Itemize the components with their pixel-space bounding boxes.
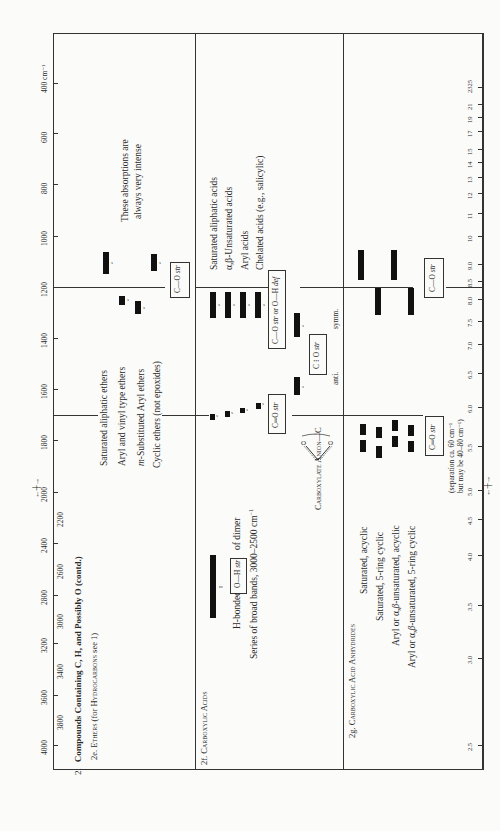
- wavenumber-tick: [53, 745, 58, 746]
- band-acid-chelated-c=o: [256, 403, 261, 409]
- wavelength-tick-label: 7.5: [466, 319, 473, 327]
- section-2f-title: 2f. Carboxylic Acids: [199, 692, 209, 765]
- band-acid-sat-c=o: [210, 414, 215, 420]
- carboxylate-c-o-label: C ⁝ O str: [312, 342, 321, 369]
- section-2g-number: 2g.: [347, 727, 357, 738]
- wavenumber-tick: [53, 133, 58, 134]
- section-2e-name: Ethers: [89, 724, 99, 748]
- wavenumber-tick-label: 1200: [40, 282, 49, 297]
- divider-2e-2f: [195, 33, 196, 770]
- ether-row-cyclic: Cyclic ethers (not epoxides): [152, 361, 162, 468]
- series-broad-bands: Series of broad bands, 3000–2500 cm−1: [248, 509, 259, 659]
- anh-row-sat-5ring: Saturated, 5-ring cyclic: [375, 532, 385, 621]
- ref-line-1200-acids-a: [195, 287, 268, 288]
- section-2e-sub-c: see 1): [89, 633, 99, 653]
- of-dimer-label: of dimer: [232, 518, 242, 550]
- wavenumber-tick: [53, 440, 58, 441]
- symm-label: symm.: [331, 309, 340, 329]
- wavenumber-tick-label: 1600: [40, 384, 49, 399]
- intensity-s: s: [143, 305, 145, 310]
- band-anh-aryl-5ring-2: [408, 425, 414, 436]
- h-bonded-label: H-bonded: [232, 591, 242, 629]
- band-carboxylate-anti: [294, 377, 300, 395]
- wavelength-tick-label: 2.5: [466, 743, 473, 751]
- wavelength-tick-label: 11: [466, 213, 473, 219]
- band-sat-aliphatic-ether: [103, 252, 109, 274]
- wavenumber-tick: [53, 492, 58, 493]
- svg-text:O: O: [328, 439, 333, 447]
- anh-separation-note-2: but may be 40–80 cm⁻¹): [456, 419, 465, 493]
- acid-row-aryl: Aryl acids: [240, 231, 250, 270]
- anh-row-aryl-acyclic: Aryl or α,β-unsaturated, acyclic: [391, 525, 401, 646]
- intensity-s: s: [302, 323, 304, 328]
- wavelength-tick-label: 3.5: [466, 603, 473, 611]
- intensity-s: s: [246, 407, 248, 412]
- section-2e-title: 2e. Ethers (for Hydrocarbons see 1): [89, 633, 99, 760]
- wavenumber-tick-label: 600: [40, 132, 49, 143]
- wavenumber-tick-label: 400 cm⁻¹: [40, 65, 49, 94]
- wavelength-tick-label: 2325: [466, 80, 473, 93]
- oh-str-label: O—H str: [233, 560, 242, 588]
- wavenumber-tick-label: 3200: [40, 638, 49, 653]
- wavelength-tick-label: 3.0: [466, 656, 473, 664]
- wavenumber-tick-label: 1800: [40, 435, 49, 450]
- band-acid-aryl-c=o: [240, 408, 245, 413]
- ether-note-line-2: always very intense: [133, 144, 143, 219]
- intensity-s: s: [127, 297, 129, 302]
- band-oh-dimer: [210, 555, 216, 618]
- wavenumber-tick-label: 4000: [40, 740, 49, 755]
- wavenumber-tick: [53, 543, 58, 544]
- band-acid-aryl-co: [240, 292, 246, 318]
- divider-2f-2g: [343, 33, 344, 770]
- wavelength-tick-label: 13: [466, 177, 473, 184]
- wavenumber-tick: [53, 695, 58, 696]
- ref-line-1200-anh-b: [446, 287, 483, 288]
- wavenumber-tick-label: 2000: [40, 487, 49, 502]
- wavenumber-minor-tick-label: 2600: [56, 564, 65, 579]
- wavenumber-tick: [53, 83, 58, 84]
- wavenumber-tick: [53, 643, 58, 644]
- wavelength-tick-label: 6.0: [466, 405, 473, 413]
- anh-co-str-label: C—O str: [428, 264, 437, 292]
- wavenumber-tick-label: 1000: [40, 231, 49, 246]
- ether-row-saturated: Saturated aliphatic ethers: [99, 370, 109, 466]
- ref-line-1700-acids-a: [195, 415, 209, 416]
- wavelength-tick-label: 5.5: [466, 444, 473, 452]
- ether-co-str-label: C—O str: [173, 265, 182, 293]
- section-2g-title: 2g. Carboxylic Acid Anhydrides: [347, 624, 357, 738]
- wavelength-tick-label: 5.0: [466, 488, 473, 496]
- band-m-subst-aryl-ether: [135, 301, 141, 314]
- intensity-s: s: [216, 413, 218, 418]
- acid-c=o-str-label: C═O str: [271, 402, 280, 428]
- section-heading: 2.Compounds Containing C, H, and Possibl…: [73, 556, 83, 775]
- wavelength-tick-label: 4.5: [466, 517, 473, 525]
- scale-break-marker-top: ←┼→: [32, 478, 41, 498]
- intensity-s: s: [302, 384, 304, 389]
- wavelength-tick-label: 10: [466, 236, 473, 243]
- acid-row-ab-unsat: α,β-Unsaturated acids: [224, 187, 234, 270]
- band-anh-sat-acyclic-co: [358, 250, 364, 280]
- wavenumber-tick-label: 2400: [40, 538, 49, 553]
- band-anh-aryl-acyclic-1: [392, 436, 398, 447]
- wavenumber-tick: [53, 389, 58, 390]
- band-aryl-vinyl-ether: [119, 296, 125, 305]
- intensity-s: s: [111, 260, 113, 265]
- ref-line-1200-ethers: [53, 287, 165, 288]
- wavelength-axis-line: [483, 33, 484, 770]
- acid-co-or-oh-label: C—O str or O—H def: [271, 277, 280, 344]
- band-anh-sat-acyclic-2: [360, 424, 366, 435]
- anh-row-sat-acyclic: Saturated, acyclic: [359, 526, 369, 594]
- wavelength-tick-label: 17: [466, 131, 473, 138]
- section-2g-name: Carboxylic Acid Anhydrides: [347, 624, 357, 725]
- band-acid-chelated-co: [255, 292, 261, 318]
- ref-line-1700-acids-b: [292, 415, 343, 416]
- intensity-m: m: [219, 584, 223, 589]
- wavelength-tick-label: 14: [466, 162, 473, 169]
- wavelength-tick-label: 21: [466, 104, 473, 111]
- wavelength-tick-label: 6.5: [466, 371, 473, 379]
- ether-row-m-substituted: m-Substituted Aryl ethers: [136, 369, 146, 466]
- acid-row-chelated: Chelated acids (e.g., salicylic): [255, 156, 265, 270]
- intensity-s: s: [218, 302, 220, 307]
- wavenumber-tick: [53, 338, 58, 339]
- wavelength-tick-label: 9.0: [466, 262, 473, 270]
